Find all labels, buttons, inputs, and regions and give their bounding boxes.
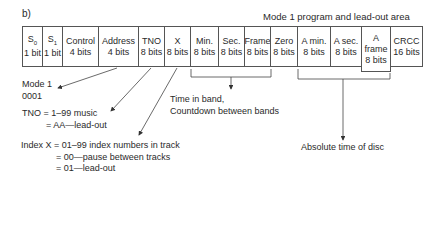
note-tno-line1: TNO = 1–99 music	[22, 108, 107, 120]
note-tno-line2: = AA—lead-out	[22, 120, 107, 132]
note-mode: Mode 1 0001	[22, 79, 52, 102]
note-time-in-band: Time in band, Countdown between bands	[170, 94, 279, 117]
arrow-tno-to-note	[111, 68, 151, 111]
note-time-line1: Time in band,	[170, 94, 279, 106]
note-absolute-time: Absolute time of disc	[301, 142, 384, 154]
note-index-line1: Index X = 01–99 index numbers in track	[21, 140, 180, 152]
note-index-line2: = 00—pause between tracks	[21, 152, 180, 164]
note-time-line2: Countdown between bands	[170, 106, 279, 118]
bracket-absolute-time	[298, 69, 390, 79]
arrow-address-to-mode	[58, 68, 117, 88]
note-mode-line2: 0001	[22, 91, 52, 103]
note-index-line3: = 01—lead-out	[21, 163, 180, 175]
note-index: Index X = 01–99 index numbers in track =…	[21, 140, 180, 175]
note-tno: TNO = 1–99 music = AA—lead-out	[22, 108, 107, 131]
note-mode-line1: Mode 1	[22, 79, 52, 91]
bracket-time-in-band	[191, 69, 271, 77]
